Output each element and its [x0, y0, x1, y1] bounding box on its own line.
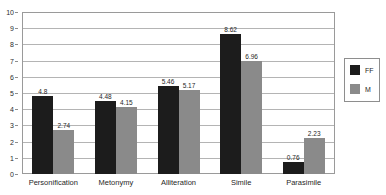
- bar-group: 4.82.74: [32, 12, 74, 174]
- bar-group: 5.465.17: [158, 12, 200, 174]
- x-tick-label: Metonymy: [99, 178, 134, 187]
- y-tick-mark: [15, 93, 18, 94]
- y-tick-mark: [15, 142, 18, 143]
- x-tick-label: Personification: [29, 178, 78, 187]
- legend-entry-m: M: [350, 84, 371, 94]
- bar-ff[interactable]: 4.8: [32, 96, 53, 174]
- bar-ff[interactable]: 5.46: [158, 86, 179, 174]
- bar-ff[interactable]: 0.76: [283, 162, 304, 174]
- bar-value-label: 8.62: [224, 26, 237, 33]
- y-tick-label: 2: [10, 138, 14, 145]
- y-tick-label: 7: [10, 57, 14, 64]
- y-tick-label: 10: [6, 9, 14, 16]
- y-tick-mark: [15, 12, 18, 13]
- legend-label-m: M: [365, 86, 371, 93]
- bar-ff[interactable]: 8.62: [220, 34, 241, 174]
- x-axis-category-labels: PersonificationMetonymyAlliterationSimil…: [22, 178, 335, 192]
- y-tick-label: 0: [10, 171, 14, 178]
- bar-m[interactable]: 5.17: [179, 90, 200, 174]
- bar-value-label: 4.15: [120, 99, 133, 106]
- bar-m[interactable]: 6.96: [241, 61, 262, 174]
- y-tick-mark: [15, 158, 18, 159]
- x-tick-label: Alliteration: [161, 178, 196, 187]
- y-tick-mark: [15, 44, 18, 45]
- y-tick-mark: [15, 174, 18, 175]
- y-axis: 012345678910: [0, 12, 18, 174]
- legend-label-ff: FF: [365, 67, 374, 74]
- y-tick-mark: [15, 77, 18, 78]
- legend-entry-ff: FF: [350, 65, 374, 75]
- bar-groups: 4.82.744.484.155.465.178.626.960.762.23: [22, 12, 335, 174]
- y-tick-label: 6: [10, 73, 14, 80]
- y-tick-mark: [15, 61, 18, 62]
- bar-value-label: 5.17: [183, 82, 196, 89]
- legend-swatch-m: [350, 84, 360, 94]
- bar-value-label: 6.96: [245, 53, 258, 60]
- bar-value-label: 0.76: [287, 154, 300, 161]
- x-tick-label: Simile: [231, 178, 251, 187]
- bar-value-label: 2.23: [308, 130, 321, 137]
- y-tick-label: 1: [10, 154, 14, 161]
- bar-m[interactable]: 2.74: [53, 130, 74, 174]
- y-tick-label: 8: [10, 41, 14, 48]
- bar-m[interactable]: 4.15: [116, 107, 137, 174]
- bar-ff[interactable]: 4.48: [95, 101, 116, 174]
- y-tick-mark: [15, 28, 18, 29]
- bar-group: 8.626.96: [220, 12, 262, 174]
- x-tick-label: Parasimile: [286, 178, 321, 187]
- y-tick-mark: [15, 125, 18, 126]
- bar-value-label: 4.48: [99, 93, 112, 100]
- bar-chart: 012345678910 4.82.744.484.155.465.178.62…: [0, 0, 386, 195]
- bar-value-label: 4.8: [38, 88, 47, 95]
- legend-swatch-ff: [350, 65, 360, 75]
- bar-group: 4.484.15: [95, 12, 137, 174]
- bar-m[interactable]: 2.23: [304, 138, 325, 174]
- y-tick-label: 4: [10, 106, 14, 113]
- bar-group: 0.762.23: [283, 12, 325, 174]
- y-tick-label: 3: [10, 122, 14, 129]
- bar-value-label: 2.74: [57, 122, 70, 129]
- chart-legend: FF M: [344, 58, 380, 102]
- y-tick-mark: [15, 109, 18, 110]
- y-tick-label: 5: [10, 90, 14, 97]
- y-tick-label: 9: [10, 25, 14, 32]
- bar-value-label: 5.46: [162, 78, 175, 85]
